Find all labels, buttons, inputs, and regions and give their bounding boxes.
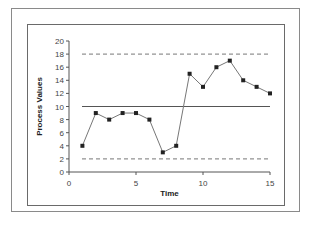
- x-axis-title: Time: [160, 189, 179, 198]
- data-point-marker: [214, 65, 218, 69]
- data-point-marker: [174, 144, 178, 148]
- control-chart: 02468101214161820051015TimeProcess Value…: [0, 0, 313, 228]
- x-tick-label: 0: [67, 179, 72, 188]
- y-axis-title: Process Values: [35, 77, 44, 136]
- data-point-marker: [228, 59, 232, 63]
- data-point-marker: [80, 144, 84, 148]
- y-tick-label: 10: [55, 103, 64, 112]
- y-tick-label: 16: [55, 63, 64, 72]
- y-tick-label: 4: [60, 142, 65, 151]
- x-tick-label: 15: [266, 179, 275, 188]
- y-tick-label: 0: [60, 168, 65, 177]
- data-point-marker: [255, 85, 259, 89]
- data-point-marker: [147, 118, 151, 122]
- y-tick-label: 8: [60, 116, 65, 125]
- y-tick-label: 2: [60, 155, 65, 164]
- data-point-marker: [201, 85, 205, 89]
- data-point-marker: [161, 150, 165, 154]
- x-tick-label: 10: [199, 179, 208, 188]
- data-point-marker: [107, 118, 111, 122]
- data-point-marker: [188, 72, 192, 76]
- data-point-marker: [268, 91, 272, 95]
- y-tick-label: 6: [60, 129, 65, 138]
- y-tick-label: 14: [55, 76, 64, 85]
- x-tick-label: 5: [134, 179, 139, 188]
- data-point-marker: [134, 111, 138, 115]
- y-tick-label: 18: [55, 50, 64, 59]
- y-tick-label: 12: [55, 89, 64, 98]
- y-tick-label: 20: [55, 37, 64, 46]
- data-point-marker: [241, 78, 245, 82]
- data-point-marker: [121, 111, 125, 115]
- data-point-marker: [94, 111, 98, 115]
